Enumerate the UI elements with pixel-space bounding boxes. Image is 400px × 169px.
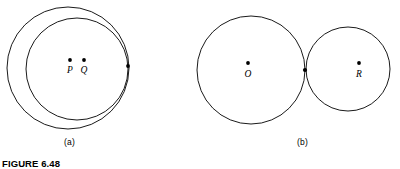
panel-a-geometry: PQ [7, 7, 130, 129]
point-label-R: R [355, 69, 362, 79]
point-dot-tangent-point-b [303, 68, 307, 72]
figure-caption: FIGURE 6.48 [2, 158, 60, 169]
panel-label-a: (a) [64, 137, 75, 147]
point-label-P: P [66, 65, 73, 75]
panel-label-b: (b) [297, 137, 308, 147]
point-dot-O [246, 61, 250, 65]
geometry-diagram: PQ OR [0, 0, 400, 169]
point-dot-tangent-point-a [126, 64, 130, 68]
point-dot-R [357, 61, 361, 65]
panel-b-geometry: OR [197, 16, 390, 124]
point-dot-Q [82, 58, 86, 62]
point-label-Q: Q [81, 65, 88, 75]
circle-r [306, 27, 390, 111]
point-dot-P [68, 58, 72, 62]
figure-container: PQ OR (a) (b) FIGURE 6.48 [0, 0, 400, 169]
point-label-O: O [245, 69, 252, 79]
inner-circle [26, 18, 128, 120]
